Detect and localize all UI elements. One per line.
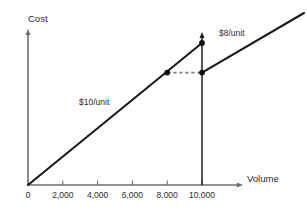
annotation-rate-10-per-unit: $10/unit (79, 98, 109, 107)
x-tick-label-0: 0 (26, 191, 31, 200)
x-tick-label-6000: 6,000 (122, 191, 143, 200)
x-tick-label-4000: 4,000 (87, 191, 108, 200)
y-axis-title: Cost (28, 14, 48, 24)
x-tick-label-8000: 8,000 (157, 191, 178, 200)
cost-volume-chart: Cost Volume 0 2,000 4,000 6,000 8,000 10… (0, 0, 307, 212)
x-tick-label-2000: 2,000 (52, 191, 73, 200)
x-axis-title: Volume (247, 174, 279, 184)
data-point-10000-high (199, 40, 205, 46)
series-line-8-per-unit (202, 13, 304, 73)
annotation-rate-8-per-unit: $8/unit (219, 29, 245, 38)
x-tick-label-10000: 10,000 (189, 191, 215, 200)
series-line-10-per-unit (28, 43, 202, 185)
data-point-10000-low (199, 70, 205, 76)
data-point-8000 (164, 70, 170, 76)
